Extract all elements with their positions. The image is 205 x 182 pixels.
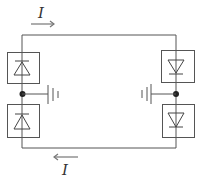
left-top-diode-module: [8, 52, 40, 84]
top-current-label: I: [37, 4, 45, 22]
right-bottom-diode-module: [163, 104, 195, 138]
right-top-diode-box: [162, 51, 195, 83]
left-bottom-diode-box: [8, 105, 40, 138]
bottom-current-indicator: I: [54, 154, 78, 179]
top-current-indicator: I: [31, 4, 54, 27]
bottom-wire: [22, 137, 176, 148]
left-bottom-diode-module: [8, 104, 40, 138]
right-bottom-diode-box: [163, 105, 195, 138]
circuit-svg: I: [0, 0, 205, 182]
left-battery: [48, 85, 58, 104]
circuit-diagram: I: [0, 0, 205, 182]
top-wire: [22, 35, 176, 52]
right-battery: [142, 84, 151, 104]
bottom-current-label: I: [61, 161, 69, 179]
left-top-diode-box: [8, 53, 40, 84]
right-top-diode-module: [162, 50, 195, 83]
